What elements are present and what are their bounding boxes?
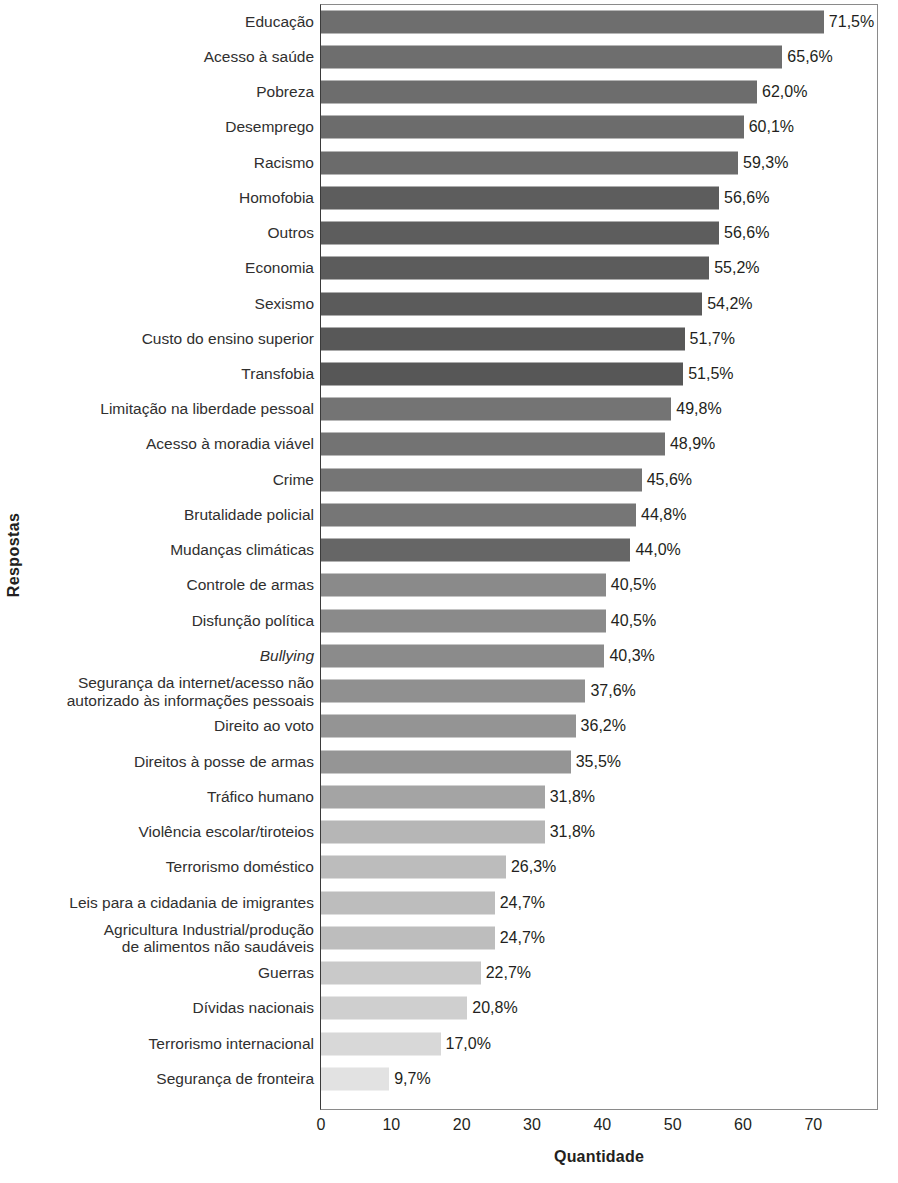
bar-row: Mudanças climáticas44,0%	[0, 533, 898, 568]
bar-row: Racismo59,3%	[0, 145, 898, 180]
bar-row: Segurança de fronteira9,7%	[0, 1061, 898, 1096]
bar-row: Controle de armas40,5%	[0, 568, 898, 603]
x-axis-tick-label: 60	[734, 1116, 752, 1134]
bar-category-label: Segurança da internet/acesso não autoriz…	[14, 674, 314, 709]
bar	[321, 574, 606, 597]
bar-row: Custo do ensino superior51,7%	[0, 321, 898, 356]
bar-category-label: Crime	[14, 471, 314, 489]
bar-category-label: Economia	[14, 260, 314, 278]
bar-value-label: 51,7%	[690, 330, 735, 348]
bar-value-label: 24,7%	[500, 894, 545, 912]
x-axis-tick-label: 50	[664, 1116, 682, 1134]
bar-value-label: 31,8%	[550, 788, 595, 806]
bar	[321, 750, 571, 773]
bar-row: Terrorismo doméstico26,3%	[0, 850, 898, 885]
bar	[321, 186, 719, 209]
bar-value-label: 44,0%	[635, 541, 680, 559]
bar-row: Acesso à moradia viável48,9%	[0, 427, 898, 462]
bar-row: Violência escolar/tiroteios31,8%	[0, 815, 898, 850]
x-axis-tick-label: 0	[317, 1116, 326, 1134]
bar-row: Leis para a cidadania de imigrantes24,7%	[0, 885, 898, 920]
bar-category-label: Homofobia	[14, 189, 314, 207]
bar-category-label: Segurança de fronteira	[14, 1070, 314, 1088]
bar-category-label: Direito ao voto	[14, 718, 314, 736]
bar-category-label: Guerras	[14, 964, 314, 982]
bar-row: Outros56,6%	[0, 215, 898, 250]
bar-category-label: Bullying	[14, 647, 314, 665]
bar	[321, 81, 757, 104]
bar	[321, 785, 545, 808]
bar-row: Educação71,5%	[0, 4, 898, 39]
bar	[321, 609, 606, 632]
bar-category-label: Educação	[14, 13, 314, 31]
bar-row: Crime45,6%	[0, 462, 898, 497]
bar-row: Segurança da internet/acesso não autoriz…	[0, 674, 898, 709]
bar-row: Terrorismo internacional17,0%	[0, 1026, 898, 1061]
bar-category-label: Racismo	[14, 154, 314, 172]
bar-chart-figure: Respostas Educação71,5%Acesso à saúde65,…	[0, 0, 898, 1183]
bar-value-label: 62,0%	[762, 83, 807, 101]
bar-value-label: 44,8%	[641, 506, 686, 524]
bar-category-label: Brutalidade policial	[14, 506, 314, 524]
x-axis-tick-label: 30	[523, 1116, 541, 1134]
bar-row: Pobreza62,0%	[0, 74, 898, 109]
bar	[321, 257, 709, 280]
x-axis-tick-label: 70	[804, 1116, 822, 1134]
bar-row: Economia55,2%	[0, 251, 898, 286]
bar-row: Guerras22,7%	[0, 955, 898, 990]
bar	[321, 962, 481, 985]
bar	[321, 151, 738, 174]
bar-value-label: 40,5%	[611, 576, 656, 594]
bar-value-label: 51,5%	[688, 365, 733, 383]
bar-category-label: Acesso à saúde	[14, 48, 314, 66]
bar	[321, 821, 545, 844]
bar	[321, 1032, 441, 1055]
bar	[321, 997, 467, 1020]
bar-category-label: Controle de armas	[14, 577, 314, 595]
bar-row: Acesso à saúde65,6%	[0, 39, 898, 74]
bar-row: Disfunção política40,5%	[0, 603, 898, 638]
bar-category-label: Leis para a cidadania de imigrantes	[14, 894, 314, 912]
bar-value-label: 56,6%	[724, 189, 769, 207]
bar-category-label: Dívidas nacionais	[14, 1000, 314, 1018]
bar-row: Direito ao voto36,2%	[0, 709, 898, 744]
bar-value-label: 40,5%	[611, 612, 656, 630]
bar-category-label: Acesso à moradia viável	[14, 436, 314, 454]
bar	[321, 362, 683, 385]
bar-value-label: 60,1%	[749, 118, 794, 136]
bar	[321, 680, 585, 703]
bar-value-label: 45,6%	[647, 471, 692, 489]
bar-category-label: Pobreza	[14, 83, 314, 101]
bar-category-label: Agricultura Industrial/produção de alime…	[14, 920, 314, 955]
bar-row: Dívidas nacionais20,8%	[0, 991, 898, 1026]
bar-value-label: 9,7%	[394, 1070, 430, 1088]
bar	[321, 116, 744, 139]
bar-category-label: Terrorismo doméstico	[14, 859, 314, 877]
bar-value-label: 48,9%	[670, 435, 715, 453]
bar-value-label: 55,2%	[714, 259, 759, 277]
bar-value-label: 37,6%	[590, 682, 635, 700]
bar	[321, 327, 685, 350]
bar-row: Direitos à posse de armas35,5%	[0, 744, 898, 779]
bar	[321, 503, 636, 526]
bar-category-label: Transfobia	[14, 365, 314, 383]
bar	[321, 1067, 389, 1090]
x-axis-tick-label: 40	[593, 1116, 611, 1134]
bar	[321, 644, 604, 667]
bar	[321, 926, 495, 949]
bar-category-label: Tráfico humano	[14, 788, 314, 806]
bar	[321, 539, 630, 562]
bar-row: Limitação na liberdade pessoal49,8%	[0, 392, 898, 427]
bar	[321, 468, 642, 491]
bar-value-label: 49,8%	[676, 400, 721, 418]
bar-category-label: Outros	[14, 224, 314, 242]
bar	[321, 433, 665, 456]
bar-value-label: 59,3%	[743, 154, 788, 172]
bar	[321, 715, 576, 738]
x-axis-title: Quantidade	[320, 1148, 878, 1166]
bar-row: Sexismo54,2%	[0, 286, 898, 321]
bar	[321, 398, 671, 421]
bar-value-label: 26,3%	[511, 858, 556, 876]
bar-category-label: Terrorismo internacional	[14, 1035, 314, 1053]
bar	[321, 222, 719, 245]
